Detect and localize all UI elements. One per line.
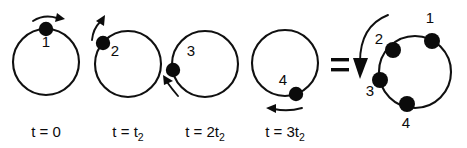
frame-3-direction-arrow-shaft — [167, 82, 178, 96]
combined-dot-1-label: 1 — [426, 9, 434, 26]
frame-4-particle-dot — [289, 87, 303, 101]
frame-4-time-prefix: t = — [265, 123, 286, 140]
frame-2-time-subscript: 2 — [138, 131, 144, 143]
frame-3-time-label: t = 2t2 — [185, 123, 225, 143]
equals-bar-bottom — [331, 68, 349, 71]
frame-1-time-coefficient: 0 — [52, 123, 60, 140]
combined-dot-3 — [372, 72, 388, 88]
combined-dot-3-label: 3 — [366, 82, 374, 99]
equals-sign — [331, 58, 349, 71]
frame-3-time-coefficient: 2t — [206, 123, 219, 140]
frame-4-time-label: t = 3t2 — [265, 123, 305, 143]
equals-bar-top — [331, 58, 349, 61]
frame-1-dot-label: 1 — [42, 33, 50, 50]
combined-dot-1 — [424, 33, 440, 49]
combined-dot-2-label: 2 — [375, 30, 383, 47]
frame-4-time-subscript: 2 — [299, 131, 305, 143]
frame-4-group: 4 — [252, 30, 318, 113]
frame-2-group: 2 — [92, 15, 161, 97]
frame-1-time-prefix: t = — [31, 123, 52, 140]
frame-1-direction-arrowhead — [55, 13, 65, 22]
frame-3-dot-label: 3 — [187, 42, 195, 59]
frame-2-dot-label: 2 — [111, 42, 119, 59]
frame-2-time-label: t = t2 — [112, 123, 143, 143]
frame-3-group: 3 — [163, 31, 238, 97]
frame-4-dot-label: 4 — [279, 71, 287, 88]
combined-dot-4 — [399, 96, 415, 112]
frame-3-orbit-circle — [172, 31, 238, 97]
time-labels-row: t = 0 t = t2 t = 2t2 t = 3t2 — [31, 123, 305, 143]
frame-1-direction-arrow-shaft — [33, 17, 57, 21]
frame-3-particle-dot — [166, 63, 180, 77]
frame-3-time-subscript: 2 — [219, 131, 225, 143]
figure-canvas: 1 2 3 4 — [0, 0, 467, 148]
combined-orbit-group: 1 2 3 4 — [366, 9, 451, 131]
frame-4-direction-arrow-shaft — [274, 108, 302, 110]
physics-orbit-diagram: 1 2 3 4 — [0, 0, 467, 148]
frame-4-time-coefficient: 3t — [286, 123, 299, 140]
frame-2-particle-dot — [96, 36, 110, 50]
frame-1-group: 1 — [13, 13, 79, 95]
time-progression-arrowhead — [353, 58, 368, 79]
frame-4-direction-arrowhead — [266, 104, 276, 113]
frame-1-time-label: t = 0 — [31, 123, 61, 140]
combined-dot-2 — [385, 42, 401, 58]
frame-3-time-prefix: t = — [185, 123, 206, 140]
frame-2-time-prefix: t = — [112, 123, 133, 140]
time-progression-arrow — [353, 15, 388, 79]
combined-dot-4-label: 4 — [402, 114, 410, 131]
